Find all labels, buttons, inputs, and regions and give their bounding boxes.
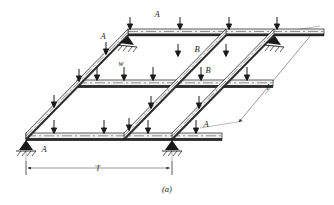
beam-label-a: A bbox=[99, 31, 106, 41]
beam-label-a: A bbox=[153, 9, 160, 19]
beam-grid-diagram: A A B w B A A l l (a) bbox=[0, 0, 334, 205]
figure-caption: (a) bbox=[162, 184, 172, 194]
beam-label-a: A bbox=[40, 144, 47, 154]
beam-label-b: B bbox=[194, 44, 199, 54]
figure-container: A A B w B A A l l (a) bbox=[0, 0, 334, 205]
beam-label-a: A bbox=[202, 119, 209, 129]
beam-label-b: B bbox=[205, 65, 210, 75]
load-label-w: w bbox=[118, 59, 123, 68]
